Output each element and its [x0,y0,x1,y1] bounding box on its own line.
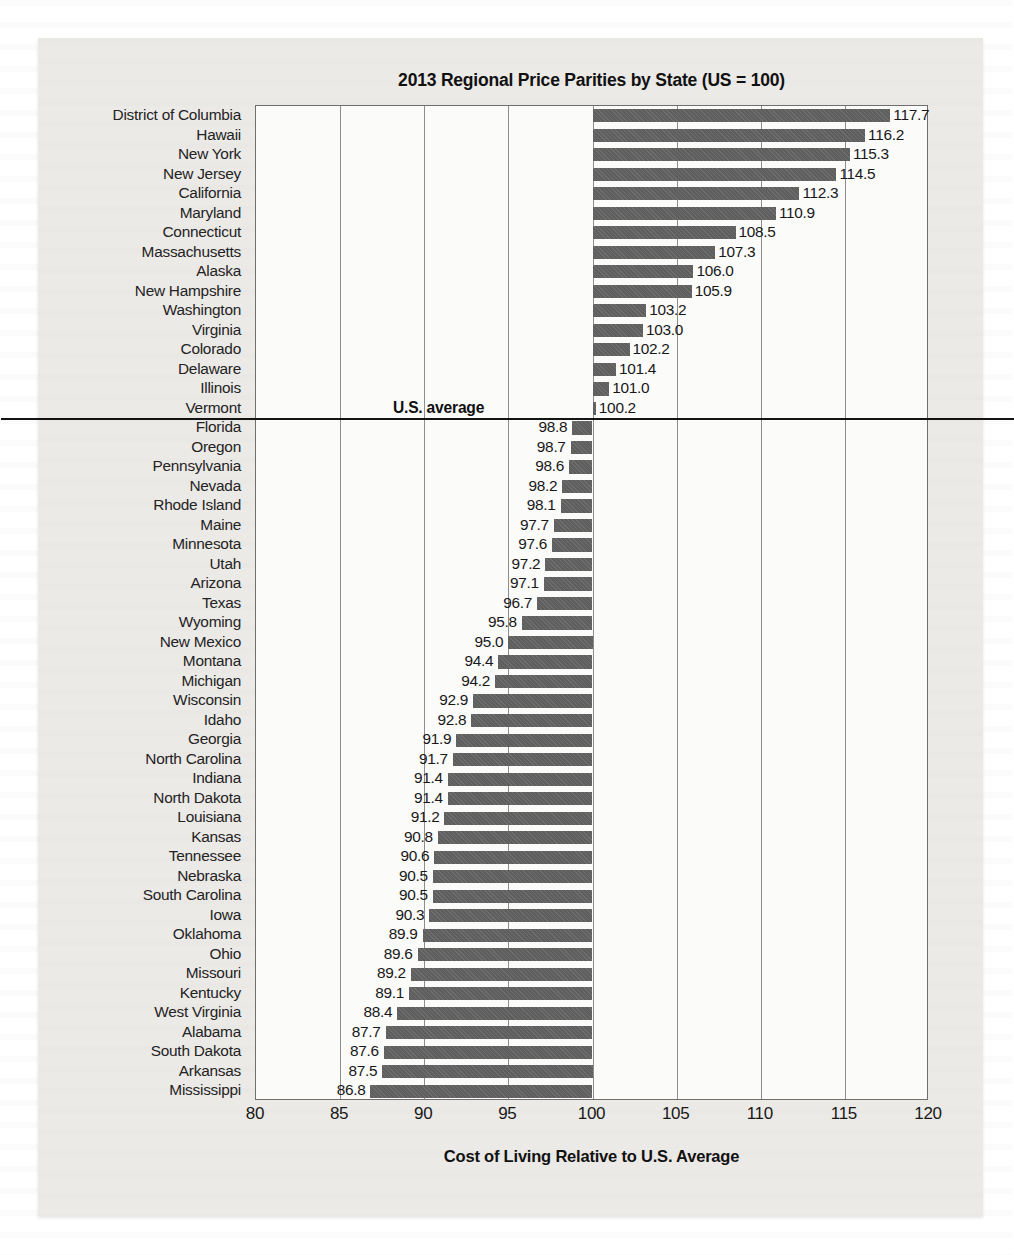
bar[interactable] [593,226,736,239]
bar[interactable] [471,714,592,727]
bar[interactable] [411,968,593,981]
bar[interactable] [593,382,610,395]
bar-value-label: 117.7 [893,105,929,125]
bar[interactable] [448,792,593,805]
category-label: Utah [209,554,241,574]
bar-value-label: 88.4 [334,1002,392,1022]
bar-row [256,243,927,263]
bar-row [256,711,927,731]
bar[interactable] [434,851,592,864]
category-label: West Virginia [154,1002,241,1022]
bar[interactable] [561,499,593,512]
bar[interactable] [593,285,692,298]
category-label: South Carolina [143,885,241,905]
bar[interactable] [429,909,592,922]
bar[interactable] [593,109,891,122]
bar[interactable] [554,519,593,532]
bar[interactable] [571,441,593,454]
bar-row [256,867,927,887]
bar[interactable] [382,1065,592,1078]
bar-row [256,613,927,633]
bar-value-label: 102.2 [633,339,670,359]
bar-value-label: 103.2 [649,300,686,320]
bar[interactable] [545,558,592,571]
category-label: Oklahoma [173,924,241,944]
bar-row [256,262,927,282]
bar-value-label: 90.8 [375,827,433,847]
category-label: South Dakota [151,1041,241,1061]
bar[interactable] [593,343,630,356]
bar[interactable] [433,890,593,903]
bar-row [256,106,927,126]
bar[interactable] [433,870,593,883]
bar-value-label: 103.0 [646,320,683,340]
bar[interactable] [409,987,592,1000]
bar-value-label: 97.1 [481,573,539,593]
bar[interactable] [495,675,593,688]
bar[interactable] [498,655,592,668]
bar-value-label: 97.2 [482,554,540,574]
bar[interactable] [522,616,593,629]
bar[interactable] [386,1026,593,1039]
bar[interactable] [572,421,592,434]
bar[interactable] [473,694,592,707]
bar-value-label: 98.2 [499,476,557,496]
us-average-annotation: U.S. average [393,399,484,417]
bar[interactable] [593,324,643,337]
bar-row [256,672,927,692]
bar[interactable] [593,207,776,220]
bar[interactable] [593,246,716,259]
bar[interactable] [508,636,592,649]
bar[interactable] [562,480,592,493]
bar[interactable] [456,734,592,747]
bar[interactable] [397,1007,592,1020]
bar-value-label: 91.7 [390,749,448,769]
bar-value-label: 94.4 [435,651,493,671]
x-axis-label: Cost of Living Relative to U.S. Average [255,1147,928,1166]
bar[interactable] [418,948,593,961]
bar-value-label: 91.4 [385,768,443,788]
bar-value-label: 107.3 [718,242,755,262]
bar[interactable] [444,812,592,825]
bar[interactable] [593,402,596,415]
bar-value-label: 87.5 [319,1061,377,1081]
x-tick-label: 115 [831,1104,857,1124]
bar[interactable] [593,129,866,142]
bar-row [256,886,927,906]
bar[interactable] [448,773,593,786]
bar[interactable] [593,168,837,181]
bar-value-label: 106.0 [696,261,733,281]
category-label: Florida [196,417,241,437]
bar-row [256,340,927,360]
bar-value-label: 112.3 [802,183,838,203]
bar[interactable] [593,304,647,317]
category-label: Hawaii [196,125,241,145]
bar-value-label: 91.4 [385,788,443,808]
category-label: Massachusetts [142,242,241,262]
bar[interactable] [593,265,694,278]
bar[interactable] [453,753,593,766]
bar[interactable] [593,187,800,200]
bar-value-label: 98.6 [506,456,564,476]
bar[interactable] [593,363,617,376]
bar[interactable] [370,1085,592,1098]
bar-row [256,808,927,828]
bar[interactable] [569,460,593,473]
category-label: Maine [200,515,241,535]
bar-value-label: 98.7 [508,437,566,457]
bar[interactable] [384,1046,593,1059]
bar[interactable] [593,148,850,161]
bar-row [256,691,927,711]
bar-row [256,301,927,321]
bar-row [256,730,927,750]
bar-row [256,282,927,302]
bar-value-label: 95.0 [445,632,503,652]
category-label: Kansas [191,827,241,847]
bar[interactable] [544,577,593,590]
bar[interactable] [552,538,592,551]
bar-value-label: 91.2 [381,807,439,827]
bar[interactable] [438,831,593,844]
bar-row [256,204,927,224]
bar[interactable] [537,597,593,610]
bar[interactable] [423,929,593,942]
